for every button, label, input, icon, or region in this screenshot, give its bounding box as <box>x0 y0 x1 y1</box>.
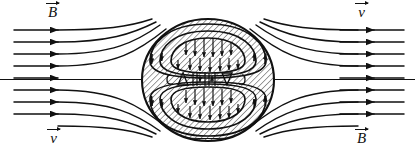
label-text: v <box>47 131 60 146</box>
streamline-arrows-right <box>340 30 404 114</box>
label-text: B <box>355 131 368 146</box>
vector-arrow-overbar <box>46 3 59 4</box>
streamline-arrows-left <box>14 30 58 114</box>
magnetic-field-vector-upstream: B <box>46 3 59 20</box>
field-line-diagram: B v v B <box>0 0 415 158</box>
vector-arrow-overbar <box>355 3 368 4</box>
diagram-canvas <box>0 0 415 158</box>
magnetic-field-vector-downstream: B <box>355 129 368 146</box>
label-text: B <box>46 5 59 20</box>
label-text: v <box>355 5 368 20</box>
velocity-vector-downstream: v <box>355 3 368 20</box>
vector-arrow-overbar <box>47 129 60 130</box>
vector-arrow-overbar <box>355 129 368 130</box>
velocity-vector-upstream: v <box>47 129 60 146</box>
